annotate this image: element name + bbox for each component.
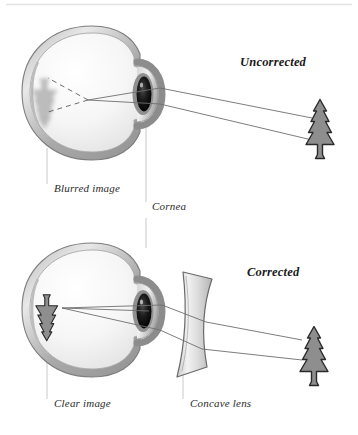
- object-tree-corrected: [300, 327, 328, 386]
- label-concave-lens: Concave lens: [190, 397, 251, 409]
- pupil: [137, 77, 152, 112]
- object-tree-uncorrected: [306, 100, 334, 159]
- heading-uncorrected: Uncorrected: [240, 55, 306, 70]
- figure-root: Uncorrected Corrected Blurred image Corn…: [0, 0, 358, 435]
- ray-top-incoming: [206, 322, 302, 340]
- panel-corrected: [22, 218, 328, 399]
- panel-uncorrected: [22, 26, 334, 202]
- ray-bottom-incoming: [160, 104, 312, 140]
- concave-lens: [177, 272, 212, 377]
- pupil-highlight: [140, 299, 143, 304]
- pupil-highlight: [140, 82, 143, 87]
- ray-bottom-incoming: [202, 349, 302, 360]
- label-cornea: Cornea: [152, 200, 186, 212]
- heading-corrected: Corrected: [247, 265, 299, 280]
- ray-top-incoming: [160, 88, 312, 118]
- label-clear-image: Clear image: [54, 397, 111, 409]
- label-blurred-image: Blurred image: [54, 182, 120, 194]
